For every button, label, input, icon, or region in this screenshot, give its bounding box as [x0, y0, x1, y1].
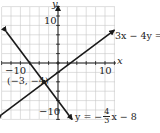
line2-fraction: 4 3: [103, 108, 110, 125]
y-axis-label: y: [52, 0, 58, 9]
x-tick-label-10: 10: [99, 66, 112, 76]
line2-equation-label: y = − 4 3 x − 8: [75, 108, 137, 125]
y-tick-label-10: 10: [44, 16, 57, 26]
line2-denominator: 3: [104, 117, 109, 125]
intersection-label: (−3, −4): [7, 76, 48, 86]
line2-prefix: y = −: [75, 112, 102, 122]
line2-suffix: x − 8: [111, 112, 136, 122]
y-tick-label-neg10: −10: [39, 107, 60, 117]
line1-equation-label: 3x − 4y = 8: [115, 31, 160, 41]
x-axis-label: x: [117, 56, 123, 66]
